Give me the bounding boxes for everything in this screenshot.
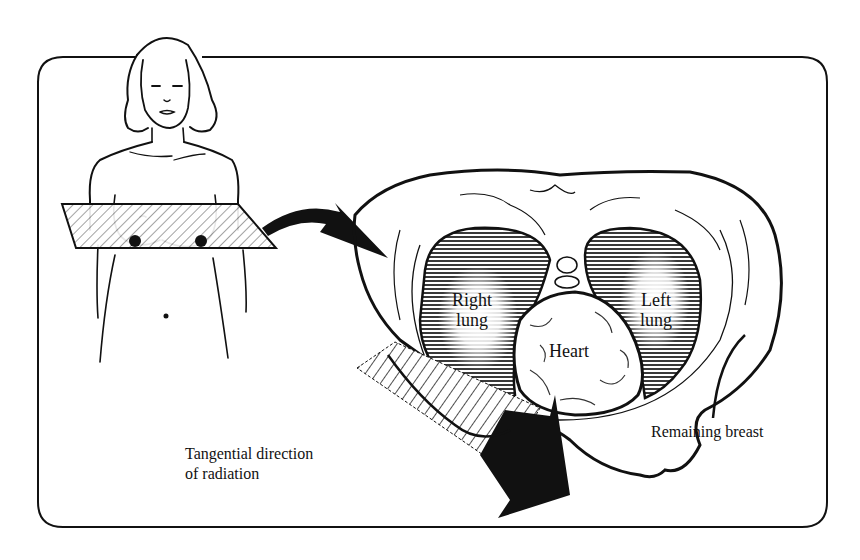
transverse-plane	[62, 204, 276, 248]
remaining-breast-pointer	[713, 335, 745, 418]
radiation-direction-label: Tangential direction of radiation	[185, 444, 313, 483]
right-lung-label: Right lung	[452, 290, 492, 330]
left-lung-label: Left lung	[640, 290, 672, 330]
figure-canvas	[0, 0, 860, 560]
heart-label: Heart	[549, 341, 589, 361]
patient-figure	[90, 38, 246, 362]
curved-arrow-icon	[262, 203, 388, 258]
vertebra	[555, 257, 579, 288]
remaining-breast-label: Remaining breast	[651, 423, 763, 441]
